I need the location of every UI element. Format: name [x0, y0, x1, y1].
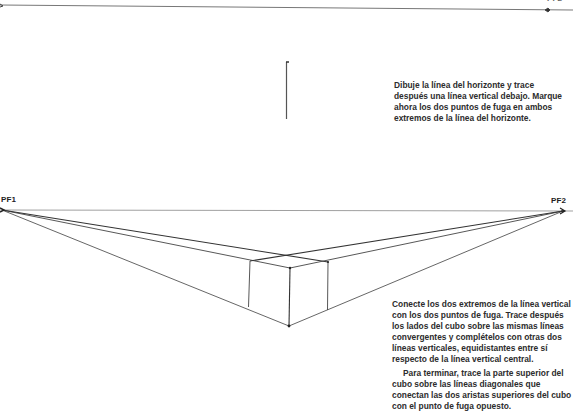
vertex-front-bottom: [288, 325, 291, 328]
instruction-step2-paragraph2: Para terminar, trace la parte superior d…: [392, 368, 572, 412]
pf1-to-right-top: [2, 210, 328, 262]
pf1-to-front-bottom: [2, 210, 289, 326]
vertex-right-top: [327, 261, 329, 263]
cube-edge-left: [249, 261, 251, 307]
horizon-line: [0, 210, 573, 211]
cube-edge-center: [289, 268, 290, 326]
label-pf1: PF1: [1, 195, 16, 204]
instruction-step1-text: Dibuje la línea del horizonte y trace de…: [394, 80, 564, 124]
horizon-line-top: [0, 5, 573, 10]
cube-edge-right: [328, 262, 329, 310]
vertex-front-top: [289, 267, 291, 269]
vanishing-point-mark-top-right: [545, 8, 550, 12]
instruction-step2: Conecte los dos extremos de la línea ver…: [392, 299, 572, 412]
label-pf2-top-partial: PF2: [547, 0, 562, 3]
instruction-step2-paragraph1: Conecte los dos extremos de la línea ver…: [392, 299, 572, 365]
pf2-to-left-top: [250, 211, 563, 261]
label-pf2: PF2: [551, 196, 566, 205]
pf1-to-front-top: [2, 210, 290, 268]
pf2-to-front-top: [290, 211, 563, 268]
instruction-step1: Dibuje la línea del horizonte y trace de…: [394, 80, 564, 124]
